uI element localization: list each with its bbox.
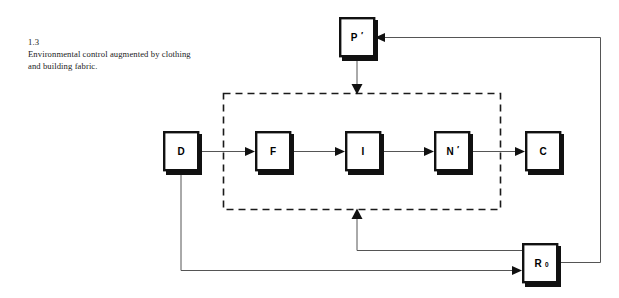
connector-d-to-r0: [181, 172, 517, 271]
node-p-prime-mark: ′: [361, 30, 363, 40]
node-box-c[interactable]: C: [526, 132, 564, 175]
node-n-label: N: [446, 146, 453, 157]
arrowhead-i-to-n: [424, 147, 434, 156]
figure-container: 1.3 Environmental control augmented by c…: [0, 0, 619, 298]
arrowhead-f-to-i: [335, 147, 345, 156]
node-box-i[interactable]: I: [346, 132, 384, 175]
node-r0-label: R: [534, 258, 542, 269]
node-n-prime-mark: ′: [457, 144, 459, 154]
node-box-f[interactable]: F: [256, 132, 294, 175]
node-c-label: C: [539, 146, 546, 157]
node-box-d[interactable]: D: [164, 132, 202, 175]
node-i-label: I: [362, 146, 365, 157]
node-r0-subscript: 0: [545, 261, 549, 268]
arrowhead-d-to-f: [245, 147, 255, 156]
node-box-n-prime[interactable]: N ′: [435, 132, 473, 175]
block-flow-diagram: D F I N ′ C P: [0, 0, 619, 298]
node-box-r0[interactable]: R 0: [523, 244, 561, 287]
node-p-label: P: [351, 32, 358, 43]
node-box-p-prime[interactable]: P ′: [340, 18, 378, 61]
connector-r0-to-boundary-bottom: [357, 216, 522, 251]
connector-r0-to-p: [380, 38, 601, 263]
arrowhead-d-to-r0: [512, 266, 522, 275]
arrowhead-n-to-c: [515, 147, 525, 156]
node-f-label: F: [270, 146, 276, 157]
node-d-label: D: [177, 146, 184, 157]
